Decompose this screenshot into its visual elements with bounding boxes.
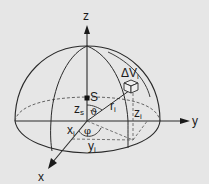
dvi-label: ΔVi bbox=[121, 66, 139, 81]
projection-right bbox=[133, 120, 148, 140]
y-axis-label: y bbox=[192, 114, 198, 128]
volume-element-cube-icon bbox=[124, 80, 138, 93]
x-axis-label: x bbox=[38, 170, 44, 184]
z-axis-label: z bbox=[83, 9, 89, 23]
zi-label: zi bbox=[134, 106, 142, 121]
hemisphere-diagram: z y x S zs ϑ ri zi xi φ yi ΔVi bbox=[0, 0, 209, 184]
zs-label: zs bbox=[74, 102, 84, 117]
projection-base bbox=[87, 121, 133, 140]
point-s-label: S bbox=[90, 90, 98, 104]
theta-label: ϑ bbox=[90, 106, 97, 117]
point-s-marker bbox=[85, 96, 90, 101]
z-axis-arrow-icon bbox=[84, 25, 90, 34]
projection-yi bbox=[72, 139, 133, 140]
y-axis-arrow-icon bbox=[180, 118, 190, 124]
yi-label: yi bbox=[88, 139, 96, 154]
xi-label: xi bbox=[67, 123, 75, 138]
phi-label: φ bbox=[84, 125, 91, 136]
x-axis-arrow-icon bbox=[48, 158, 57, 169]
